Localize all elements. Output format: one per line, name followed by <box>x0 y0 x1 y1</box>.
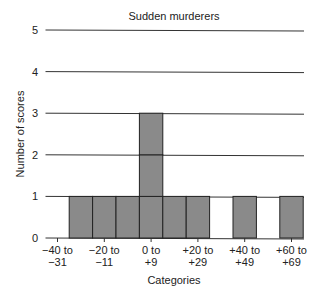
x-tick-label: +40 to <box>229 244 260 256</box>
y-tick-label: 2 <box>32 149 38 161</box>
x-tick-label: +29 <box>189 256 208 268</box>
y-tick-label: 4 <box>32 66 38 78</box>
x-tick-label: +49 <box>235 256 254 268</box>
x-tick-label: −20 to <box>89 244 120 256</box>
x-axis-label: Categories <box>147 274 201 286</box>
bar-+40-to-+49 <box>233 196 256 238</box>
x-tick-label: −40 to <box>42 244 73 256</box>
bar-+10-to-+19 <box>163 196 186 238</box>
bar-+20-to-+29 <box>186 196 209 238</box>
bar--20-to--11 <box>93 196 116 238</box>
bars <box>69 113 303 238</box>
y-axis-label: Number of scores <box>14 90 26 177</box>
y-tick-label: 3 <box>32 107 38 119</box>
bar--10-to--1 <box>116 196 139 238</box>
y-tick-label: 0 <box>32 232 38 244</box>
bar-0-to-+9 <box>139 113 162 155</box>
y-tick-label: 1 <box>32 190 38 202</box>
gridline <box>46 155 305 156</box>
histogram-chart: Sudden murderers 012345 −40 to−31−20 to−… <box>0 0 321 305</box>
bar--30-to--21 <box>69 196 92 238</box>
bar-0-to-+9 <box>139 196 162 238</box>
x-tick-label: 0 to <box>142 244 160 256</box>
gridline <box>46 113 305 114</box>
y-tick-label: 5 <box>32 24 38 36</box>
x-tick-label: +20 to <box>182 244 213 256</box>
chart-title: Sudden murderers <box>128 10 220 22</box>
y-axis-ticks: 012345 <box>32 24 38 244</box>
x-tick-label: −31 <box>48 256 67 268</box>
x-tick-label: +69 <box>282 256 301 268</box>
gridline <box>46 72 305 73</box>
x-axis-ticks: −40 to−31−20 to−110 to+9+20 to+29+40 to+… <box>42 238 307 268</box>
bar-+60-to-+69 <box>280 196 303 238</box>
x-tick-label: +9 <box>145 256 158 268</box>
x-tick-label: −11 <box>95 256 113 268</box>
bar-0-to-+9 <box>139 155 162 197</box>
x-tick-label: +60 to <box>276 244 307 256</box>
gridline <box>46 30 305 31</box>
